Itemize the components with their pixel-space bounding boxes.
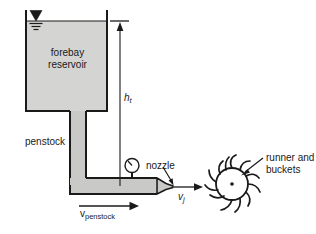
jet-velocity-subscript: j [183,195,185,204]
penstock-arrow-head [130,202,140,210]
penstock-velocity-subscript: penstock [85,212,115,221]
head-subscript: t [130,96,132,105]
forebay-label-line2: reservoir [48,59,87,70]
diagram-canvas [0,0,316,234]
pelton-runner-icon [205,155,260,212]
runner-label-line1: runner and [266,152,314,163]
hydro-turbine-diagram: forebay reservoir penstock ht nozzle vj … [0,0,316,234]
water-level-triangle [30,11,42,22]
runner-center-dot [230,182,234,186]
runner-leader-line [241,158,263,176]
runner-buckets-label: runner and buckets [266,152,314,176]
jet-arrow-head [194,183,203,191]
head-label: ht [124,92,132,107]
nozzle-label-text: nozzle [146,160,175,171]
penstock-label: penstock [25,136,65,148]
penstock-pipe-group [69,111,157,195]
bucket-10 [209,170,216,182]
jet-velocity-arrow [174,183,203,191]
pressure-gauge-icon [125,159,139,179]
bucket-4 [248,184,260,192]
bucket-3 [246,174,259,178]
penstock-label-text: penstock [25,136,65,147]
nozzle-label: nozzle [146,160,175,172]
head-arrow-head-top [117,22,124,31]
forebay-reservoir-label: forebay reservoir [40,47,95,71]
penstock-horizontal-fill [70,178,156,194]
penstock-velocity-label: vpenstock [80,208,115,223]
runner-label-line2: buckets [266,164,300,175]
jet-velocity-label: vj [178,191,185,206]
bucket-7 [221,200,232,210]
penstock-vertical-fill [70,111,86,185]
bucket-1 [231,155,236,168]
forebay-label-line1: forebay [51,47,84,58]
bucket-5 [246,192,250,206]
